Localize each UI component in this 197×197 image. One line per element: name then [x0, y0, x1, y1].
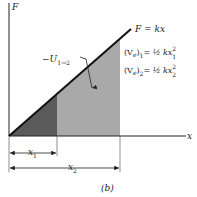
x-axis-label: x [187, 131, 192, 141]
figure-caption: (b) [101, 183, 114, 193]
f-axis-label: F [11, 2, 19, 12]
x2-label: x2 [68, 162, 77, 174]
energy-equation-2: (Ve)2= ½ kx22 [124, 63, 176, 78]
spring-force-diagram: F x F = kx −U1→2 (Ve)1= ½ kx21 (Ve)2= ½ … [0, 0, 197, 197]
work-area-region [57, 38, 120, 136]
x1-label: x1 [28, 147, 37, 159]
energy-equation-1: (Ve)1= ½ kx21 [124, 45, 176, 60]
work-label: −U1→2 [42, 54, 70, 66]
force-line-label: F = kx [134, 24, 165, 34]
